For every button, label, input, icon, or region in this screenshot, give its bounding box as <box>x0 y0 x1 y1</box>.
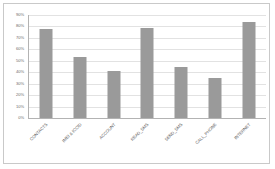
x-tick-label: READ_SMS <box>130 122 150 142</box>
bar <box>209 78 222 118</box>
y-tick-label: 0% <box>18 116 24 121</box>
x-tick-label: INTERNET <box>233 122 251 140</box>
x-axis-category-labels: CONTACTSIMEI & ICCIDACCOUNTREAD_SMSSEND_… <box>28 119 266 163</box>
x-label-slot: IMEI & ICCID <box>62 119 96 163</box>
bar-slot <box>232 15 266 118</box>
x-label-slot: CONTACTS <box>28 119 62 163</box>
bar-slot <box>63 15 97 118</box>
bar <box>73 57 86 118</box>
bar <box>141 28 154 118</box>
x-label-slot: INTERNET <box>231 119 265 163</box>
plot-area <box>28 15 266 119</box>
bar <box>175 67 188 119</box>
y-tick-label: 60% <box>16 47 24 52</box>
x-tick-label: CALL_PHONE <box>194 122 217 145</box>
bar-slot <box>164 15 198 118</box>
x-tick-label: IMEI & ICCID <box>61 122 82 143</box>
x-label-slot: ACCOUNT <box>96 119 130 163</box>
bar <box>107 71 120 118</box>
y-tick-label: 40% <box>16 70 24 75</box>
y-tick-label: 50% <box>16 58 24 63</box>
x-label-slot: SEND_SMS <box>163 119 197 163</box>
bar <box>243 22 256 118</box>
bar-slot <box>29 15 63 118</box>
chart-frame: 0%10%20%30%40%50%60%70%80%90% CONTACTSIM… <box>3 3 270 164</box>
y-tick-label: 80% <box>16 24 24 29</box>
y-tick-label: 10% <box>16 104 24 109</box>
bars-layer <box>29 15 266 118</box>
y-tick-label: 20% <box>16 93 24 98</box>
x-label-slot: READ_SMS <box>130 119 164 163</box>
x-tick-label: SEND_SMS <box>164 122 184 142</box>
bar-slot <box>131 15 165 118</box>
y-tick-label: 70% <box>16 36 24 41</box>
y-axis-tick-labels: 0%10%20%30%40%50%60%70%80%90% <box>4 15 26 119</box>
bar <box>39 29 52 118</box>
y-tick-label: 30% <box>16 81 24 86</box>
bar-slot <box>198 15 232 118</box>
x-tick-label: ACCOUNT <box>98 122 116 140</box>
bar-chart-image: 0%10%20%30%40%50%60%70%80%90% CONTACTSIM… <box>0 0 275 169</box>
x-tick-label: CONTACTS <box>29 122 49 142</box>
x-label-slot: CALL_PHONE <box>197 119 231 163</box>
y-tick-label: 90% <box>16 13 24 18</box>
bar-slot <box>97 15 131 118</box>
